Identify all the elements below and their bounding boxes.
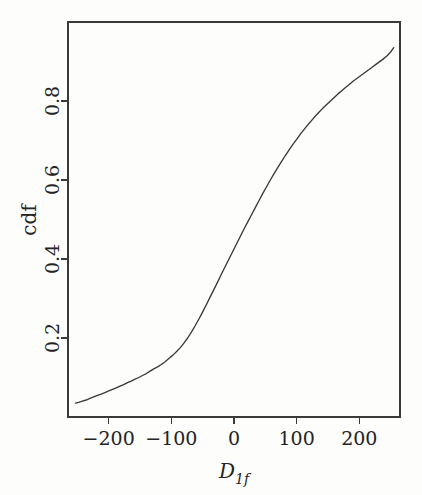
x-axis-ticks: [109, 417, 360, 424]
plot-canvas: −200−1000100200 0.20.40.60.8 cdf D1f: [0, 0, 422, 495]
x-axis-title: D1f: [218, 459, 252, 487]
y-tick-label: 0.2: [41, 323, 63, 353]
plot-frame: [68, 22, 400, 417]
y-tick-label: 0.4: [41, 244, 63, 274]
y-axis-title: cdf: [17, 203, 41, 236]
x-tick-label: 0: [228, 427, 240, 449]
y-axis-ticks: [61, 101, 68, 338]
cdf-figure: −200−1000100200 0.20.40.60.8 cdf D1f: [0, 0, 422, 495]
x-tick-label: −100: [145, 427, 197, 449]
x-tick-label: 100: [279, 427, 315, 449]
x-axis-title-var: D: [218, 459, 235, 483]
x-axis-tick-labels: −200−1000100200: [83, 427, 378, 449]
x-axis-title-subscript: 1f: [235, 471, 252, 487]
y-tick-label: 0.8: [41, 86, 63, 116]
x-tick-label: −200: [83, 427, 135, 449]
cdf-curve: [76, 48, 394, 404]
y-tick-label: 0.6: [41, 165, 63, 195]
x-tick-label: 200: [341, 427, 377, 449]
y-axis-tick-labels: 0.20.40.60.8: [41, 86, 63, 353]
